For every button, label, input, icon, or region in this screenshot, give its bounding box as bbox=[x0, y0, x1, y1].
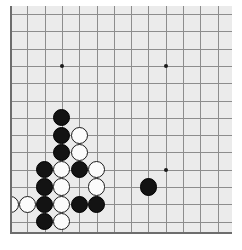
white-stone[interactable] bbox=[88, 178, 105, 195]
black-stone[interactable] bbox=[53, 127, 70, 144]
white-stone[interactable] bbox=[19, 196, 36, 213]
grid-line-horizontal-5 bbox=[10, 101, 232, 102]
grid-line-vertical-10 bbox=[183, 6, 184, 232]
grid-line-horizontal-8 bbox=[10, 152, 232, 153]
black-stone[interactable] bbox=[36, 161, 53, 178]
grid-line-horizontal-3 bbox=[10, 66, 232, 67]
hoshi-lower-right-icon bbox=[164, 168, 168, 172]
go-board-container[interactable] bbox=[0, 0, 242, 250]
white-stone[interactable] bbox=[53, 213, 70, 230]
white-stone[interactable] bbox=[53, 161, 70, 178]
grid-line-horizontal-1 bbox=[10, 31, 232, 32]
grid-line-vertical-9 bbox=[166, 6, 167, 232]
black-stone[interactable] bbox=[53, 144, 70, 161]
white-stone[interactable] bbox=[71, 144, 88, 161]
hoshi-upper-right-icon bbox=[164, 64, 168, 68]
grid-line-horizontal-2 bbox=[10, 49, 232, 50]
black-stone[interactable] bbox=[88, 196, 105, 213]
grid-line-vertical-11 bbox=[200, 6, 201, 232]
grid-line-horizontal-0 bbox=[10, 14, 232, 15]
board-edge-left bbox=[10, 6, 12, 234]
white-stone[interactable] bbox=[53, 196, 70, 213]
white-stone[interactable] bbox=[53, 178, 70, 195]
white-stone[interactable] bbox=[71, 127, 88, 144]
grid-line-vertical-7 bbox=[131, 6, 132, 232]
grid-line-horizontal-4 bbox=[10, 83, 232, 84]
black-stone[interactable] bbox=[36, 196, 53, 213]
grid-line-vertical-6 bbox=[114, 6, 115, 232]
black-stone[interactable] bbox=[140, 178, 157, 195]
go-board-surface[interactable] bbox=[10, 6, 232, 232]
black-stone[interactable] bbox=[71, 161, 88, 178]
grid-line-vertical-8 bbox=[148, 6, 149, 232]
board-edge-bottom bbox=[10, 232, 232, 234]
black-stone[interactable] bbox=[53, 109, 70, 126]
hoshi-upper-left-icon bbox=[60, 64, 64, 68]
black-stone[interactable] bbox=[36, 178, 53, 195]
grid-line-horizontal-6 bbox=[10, 118, 232, 119]
black-stone[interactable] bbox=[71, 196, 88, 213]
grid-line-vertical-12 bbox=[218, 6, 219, 232]
white-stone[interactable] bbox=[88, 161, 105, 178]
black-stone[interactable] bbox=[36, 213, 53, 230]
grid-line-horizontal-7 bbox=[10, 135, 232, 136]
